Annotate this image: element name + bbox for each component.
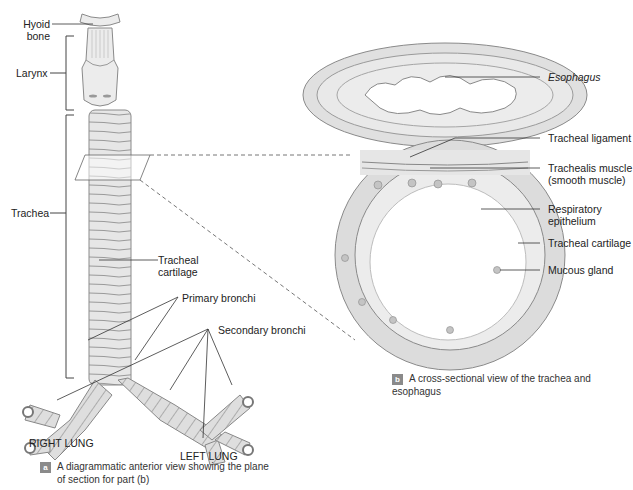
label-tracheal-cartilage-line1: Tracheal bbox=[158, 254, 198, 266]
anatomy-illustration bbox=[0, 0, 633, 490]
label-mucous-gland: Mucous gland bbox=[548, 264, 613, 276]
label-trachealis-line1: Trachealis muscle bbox=[548, 162, 632, 174]
caption-a-badge: a bbox=[40, 462, 51, 473]
esophagus-cross-section bbox=[303, 43, 587, 147]
leader-lines-a bbox=[52, 24, 232, 438]
caption-a: aA diagrammatic anterior view showing th… bbox=[40, 460, 269, 486]
label-hyoid-line1: Hyoid bbox=[22, 18, 50, 30]
label-primary-bronchi: Primary bronchi bbox=[182, 292, 256, 304]
label-trachea: Trachea bbox=[11, 207, 49, 219]
caption-b-text: A cross-sectional view of the trachea an… bbox=[392, 373, 591, 397]
label-hyoid-line2: bone bbox=[22, 30, 50, 42]
caption-a-line1: A diagrammatic anterior view showing the… bbox=[57, 461, 269, 472]
label-tracheal-cartilage-line2: cartilage bbox=[158, 266, 198, 278]
label-larynx: Larynx bbox=[16, 67, 48, 79]
label-trachealis-muscle: Trachealis muscle (smooth muscle) bbox=[548, 162, 632, 186]
caption-a-line2: of section for part (b) bbox=[57, 473, 269, 486]
larynx-drawing bbox=[82, 28, 118, 106]
trachea-drawing bbox=[89, 110, 131, 385]
label-secondary-bronchi: Secondary bronchi bbox=[218, 324, 306, 336]
label-respiratory-line1: Respiratory bbox=[548, 203, 602, 215]
caption-b-badge: b bbox=[392, 374, 403, 385]
label-respiratory-epithelium: Respiratory epithelium bbox=[548, 203, 602, 227]
label-trachealis-line2: (smooth muscle) bbox=[548, 174, 632, 186]
region-brackets bbox=[50, 36, 74, 378]
label-tracheal-cartilage-a: Tracheal cartilage bbox=[158, 254, 198, 278]
label-respiratory-line2: epithelium bbox=[548, 215, 602, 227]
label-esophagus: Esophagus bbox=[548, 71, 601, 83]
label-tracheal-ligament: Tracheal ligament bbox=[548, 132, 631, 144]
caption-b: bA cross-sectional view of the trachea a… bbox=[392, 372, 633, 398]
label-tracheal-cartilage-b: Tracheal cartilage bbox=[548, 237, 631, 249]
label-right-lung: RIGHT LUNG bbox=[29, 437, 94, 449]
trachea-cross-section bbox=[335, 140, 565, 370]
label-hyoid-bone: Hyoid bone bbox=[22, 18, 50, 42]
